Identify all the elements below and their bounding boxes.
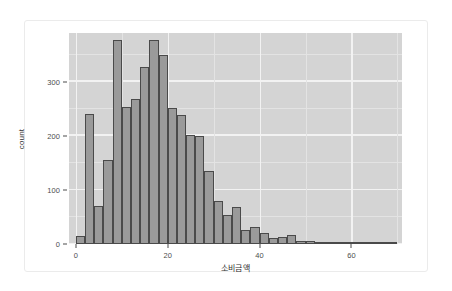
histogram-bar xyxy=(159,55,168,244)
histogram-bar xyxy=(131,99,140,244)
histogram-bar xyxy=(149,40,158,245)
y-tick-mark xyxy=(63,81,67,82)
histogram-bar xyxy=(94,206,103,244)
histogram-bar xyxy=(241,230,250,244)
histogram-bar xyxy=(186,135,195,244)
histogram-bar xyxy=(250,227,259,244)
histogram-bar xyxy=(122,107,131,244)
histogram-bar xyxy=(232,207,241,244)
plot-card: count 0100200300 0204060 소비금액 xyxy=(24,20,428,272)
x-tick-mark xyxy=(167,244,168,248)
x-tick-mark xyxy=(75,244,76,248)
screenshot-root: count 0100200300 0204060 소비금액 xyxy=(0,0,452,291)
histogram-bar xyxy=(214,201,223,244)
x-tick-label: 40 xyxy=(255,251,264,260)
histogram-bars xyxy=(69,33,402,244)
y-axis-title: count xyxy=(17,128,26,149)
x-axis-title: 소비금액 xyxy=(69,262,402,273)
histogram-bar xyxy=(113,40,122,245)
y-tick-label: 200 xyxy=(47,131,60,140)
x-tick-mark xyxy=(351,244,352,248)
y-axis: count 0100200300 xyxy=(25,33,69,244)
histogram-bar xyxy=(85,114,94,244)
histogram-bar xyxy=(204,171,213,244)
x-tick-label: 20 xyxy=(163,251,172,260)
y-tick-label: 0 xyxy=(56,240,60,249)
x-tick-mark xyxy=(259,244,260,248)
histogram-bar xyxy=(287,235,296,244)
y-tick-mark xyxy=(63,189,67,190)
histogram-bar xyxy=(76,236,85,244)
x-tick-label: 60 xyxy=(347,251,356,260)
y-tick-mark xyxy=(63,244,67,245)
histogram-bar xyxy=(168,108,177,244)
y-tick-label: 100 xyxy=(47,185,60,194)
plot-panel xyxy=(69,33,402,244)
histogram-bar xyxy=(223,215,232,244)
y-tick-mark xyxy=(63,135,67,136)
histogram-bar xyxy=(177,115,186,244)
histogram-bar xyxy=(260,233,269,244)
histogram-bar xyxy=(195,136,204,244)
histogram-bar xyxy=(140,67,149,244)
histogram-bar xyxy=(278,237,287,244)
x-tick-label: 0 xyxy=(74,251,78,260)
y-tick-label: 300 xyxy=(47,77,60,86)
histogram-bar xyxy=(103,160,112,244)
